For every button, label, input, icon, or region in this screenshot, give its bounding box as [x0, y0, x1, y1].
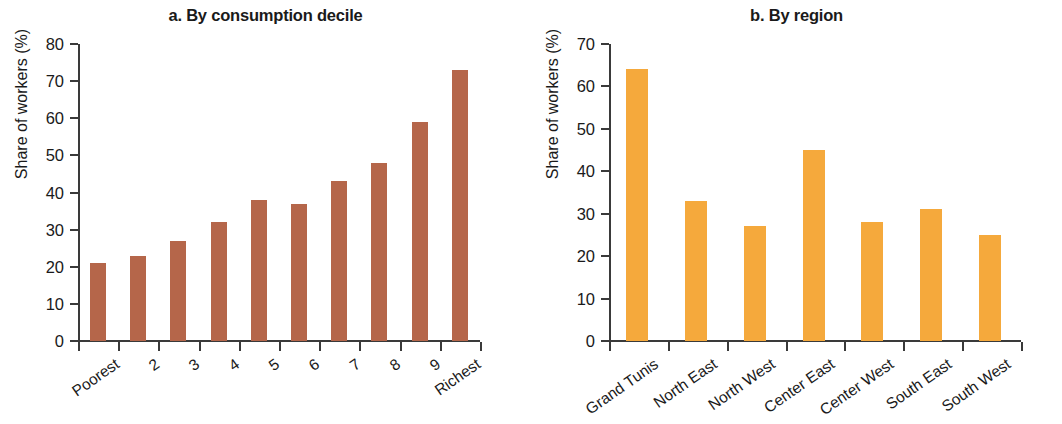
- y-axis-tick-label: 80: [46, 36, 64, 53]
- y-axis-tick-label: 10: [577, 290, 595, 307]
- x-axis-tick: [359, 342, 361, 351]
- x-axis-tick-label: Grand Tunis: [582, 355, 661, 418]
- x-axis-tick-label: 8: [386, 355, 403, 375]
- x-axis-tick: [844, 342, 846, 351]
- bar: [90, 263, 106, 341]
- y-axis-tick: 0: [70, 340, 78, 342]
- bar: [744, 226, 766, 341]
- y-axis-tick-label: 40: [46, 184, 64, 201]
- y-axis-tick-label: 60: [46, 110, 64, 127]
- y-axis-tick: 40: [601, 170, 609, 172]
- panel-a-y-axis-label: Share of workers (%): [13, 0, 31, 214]
- y-axis-tick-label: 70: [46, 73, 64, 90]
- x-axis-tick-label: 4: [226, 355, 243, 375]
- x-axis-tick: [962, 342, 964, 351]
- x-axis-tick: [158, 342, 160, 351]
- bar: [979, 235, 1001, 341]
- y-axis-tick: 0: [601, 340, 609, 342]
- x-axis-tick-label: 3: [185, 355, 202, 375]
- x-axis-tick-label: 9: [427, 355, 444, 375]
- panel-b-title: b. By region: [531, 6, 1062, 25]
- panel-b-y-axis-line: [609, 44, 611, 341]
- x-axis-tick: [903, 342, 905, 351]
- panel-b-y-axis-label: Share of workers (%): [544, 0, 562, 214]
- y-axis-tick: 30: [70, 229, 78, 231]
- x-axis-tick: [727, 342, 729, 351]
- y-axis-tick: 10: [601, 298, 609, 300]
- y-axis-tick-label: 20: [46, 259, 64, 276]
- panel-b-plot-area: 010203040506070Grand TunisNorth EastNort…: [609, 44, 1021, 341]
- x-axis-tick: [78, 342, 80, 351]
- bar: [291, 204, 307, 341]
- y-axis-tick: 20: [70, 266, 78, 268]
- y-axis-tick-label: 0: [55, 333, 64, 350]
- bar: [685, 201, 707, 341]
- x-axis-tick: [400, 342, 402, 351]
- bar: [130, 256, 146, 341]
- y-axis-tick-label: 0: [586, 333, 595, 350]
- bar: [331, 181, 347, 341]
- y-axis-tick: 80: [70, 43, 78, 45]
- y-axis-tick: 10: [70, 303, 78, 305]
- bar: [626, 69, 648, 341]
- y-axis-tick: 50: [601, 128, 609, 130]
- bar: [412, 122, 428, 341]
- y-axis-tick: 20: [601, 255, 609, 257]
- y-axis-tick-label: 30: [46, 221, 64, 238]
- x-axis-tick: [480, 342, 482, 351]
- y-axis-tick-label: 50: [46, 147, 64, 164]
- y-axis-tick: 70: [601, 43, 609, 45]
- y-axis-tick-label: 60: [577, 78, 595, 95]
- bar: [170, 241, 186, 341]
- x-axis-tick: [786, 342, 788, 351]
- y-axis-tick-label: 40: [577, 163, 595, 180]
- y-axis-tick-label: 20: [577, 248, 595, 265]
- x-axis-tick: [319, 342, 321, 351]
- x-axis-tick: [239, 342, 241, 351]
- bar: [371, 163, 387, 341]
- y-axis-tick-label: 50: [577, 121, 595, 138]
- y-axis-tick: 60: [70, 117, 78, 119]
- bar: [861, 222, 883, 341]
- y-axis-tick: 70: [70, 80, 78, 82]
- figure-root: a. By consumption decile Share of worker…: [0, 0, 1062, 424]
- x-axis-tick-label: 7: [346, 355, 363, 375]
- panel-a-plot-area: 01020304050607080Poorest23456789Richest: [78, 44, 480, 341]
- x-axis-tick: [199, 342, 201, 351]
- y-axis-tick-label: 30: [577, 205, 595, 222]
- bar: [803, 150, 825, 341]
- y-axis-tick-label: 10: [46, 296, 64, 313]
- x-axis-tick: [440, 342, 442, 351]
- y-axis-tick: 50: [70, 154, 78, 156]
- bar: [452, 70, 468, 341]
- panel-b: b. By region Share of workers (%) 010203…: [531, 0, 1062, 424]
- x-axis-tick: [668, 342, 670, 351]
- panel-a: a. By consumption decile Share of worker…: [0, 0, 531, 424]
- x-axis-tick-label: Richest: [431, 355, 484, 399]
- bar: [920, 209, 942, 341]
- x-axis-tick-label: 6: [306, 355, 323, 375]
- y-axis-tick: 30: [601, 213, 609, 215]
- x-axis-tick-label: 2: [145, 355, 162, 375]
- y-axis-tick: 40: [70, 192, 78, 194]
- bar: [211, 222, 227, 341]
- panel-a-title: a. By consumption decile: [0, 6, 531, 25]
- y-axis-tick-label: 70: [577, 36, 595, 53]
- bar: [251, 200, 267, 341]
- y-axis-tick: 60: [601, 85, 609, 87]
- x-axis-tick-label: 5: [266, 355, 283, 375]
- x-axis-tick: [609, 342, 611, 351]
- x-axis-tick: [279, 342, 281, 351]
- panel-a-y-axis-line: [78, 44, 80, 341]
- x-axis-tick: [1021, 342, 1023, 351]
- x-axis-tick: [118, 342, 120, 351]
- x-axis-tick-label: Poorest: [68, 355, 122, 400]
